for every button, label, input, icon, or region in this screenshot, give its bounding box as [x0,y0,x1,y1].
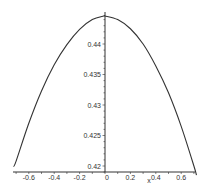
x-tick-label: 0.2 [126,174,136,181]
x-tick-label: -0.6 [23,174,35,181]
x-tick-label: 0.4 [151,174,161,181]
x-tick-label: 0.6 [176,174,186,181]
y-axis: 0.420.4250.430.4350.44 [83,12,105,172]
x-axis-title: x [147,177,151,184]
x-tick-label: -0.4 [48,174,60,181]
y-tick-label: 0.43 [87,102,101,109]
y-tick-label: 0.425 [83,132,101,139]
y-tick-label: 0.42 [87,163,101,170]
y-tick-label: 0.44 [87,41,101,48]
x-tick-label: 0 [105,174,109,181]
chart-plot-area: 0.420.4250.430.4350.44 -0.6-0.4-0.200.20… [0,0,204,189]
x-tick-label: -0.2 [74,174,86,181]
x-axis: -0.6-0.4-0.200.20.40.6 [13,172,195,181]
y-tick-label: 0.435 [83,71,101,78]
